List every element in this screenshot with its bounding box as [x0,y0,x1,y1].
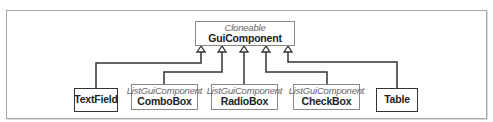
class-radiobox: ListGuiComponent RadioBox [211,84,278,110]
class-combobox: ListGuiComponent ComboBox [131,84,198,110]
connector-textfield [96,52,201,88]
connector-checkbox [266,52,327,84]
class-name: TextField [74,94,118,106]
connector-combobox [164,52,222,84]
class-name: GuiComponent [208,33,281,45]
arrowhead-icon [284,46,292,52]
class-name: RadioBox [221,96,268,108]
arrowhead-icon [197,46,205,52]
class-checkbox: ListGuiComponent CheckBox [293,84,360,110]
class-gui-component: Cloneable GuiComponent [195,21,295,46]
arrowhead-icon [218,46,226,52]
arrowhead-icon [262,46,270,52]
connector-table [288,52,397,88]
class-table: Table [376,88,418,112]
class-textfield: TextField [74,88,118,112]
arrowhead-icon [240,46,248,52]
class-name: CheckBox [302,96,352,108]
class-name: ComboBox [137,96,191,108]
class-name: Table [384,94,410,106]
